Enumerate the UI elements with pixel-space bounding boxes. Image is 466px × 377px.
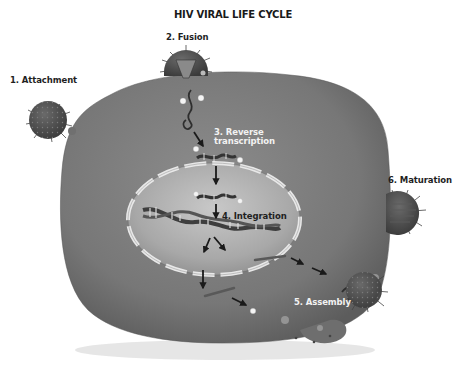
step-4-label: 4. Integration <box>222 211 287 221</box>
virus-fusion <box>160 45 212 78</box>
step-2-label: 2. Fusion <box>166 32 209 42</box>
virus-attachment <box>26 101 76 142</box>
hiv-life-cycle-diagram: HIV VIRAL LIFE CYCLE <box>0 0 466 377</box>
step-5-label: 5. Assembly <box>294 297 351 307</box>
diagram-canvas <box>0 0 466 377</box>
step-3-label-line2: transcription <box>214 137 275 146</box>
step-6-label: 6. Maturation <box>388 175 452 185</box>
step-3-label: 3. Reverse transcription <box>214 128 275 146</box>
step-1-label: 1. Attachment <box>10 75 77 85</box>
virus-maturation <box>386 190 426 235</box>
